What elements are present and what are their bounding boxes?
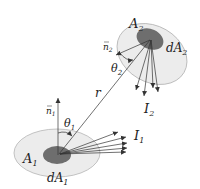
label-theta1: θ1: [64, 117, 75, 132]
label-n1: n1: [46, 106, 56, 117]
label-a2: A2: [128, 16, 143, 33]
label-theta2: θ2: [111, 62, 123, 77]
view-factor-diagram: A2 dA2 n2 θ2 I2 r n1 θ1 I1 A1 dA1: [0, 0, 200, 189]
patch-da1: [43, 146, 71, 164]
label-da2: dA2: [166, 41, 187, 57]
label-i1: I1: [133, 128, 144, 145]
label-r: r: [95, 86, 102, 100]
label-i2: I2: [143, 101, 154, 118]
label-n2: n2: [103, 42, 113, 53]
